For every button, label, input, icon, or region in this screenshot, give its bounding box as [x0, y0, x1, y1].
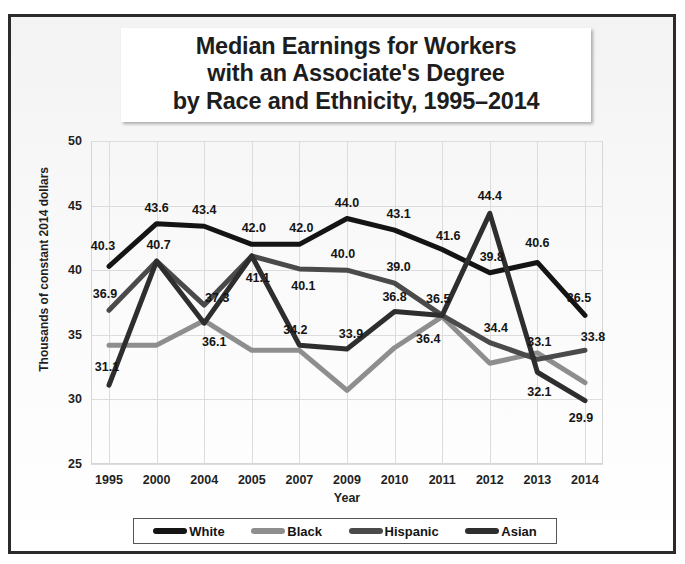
legend-item-asian[interactable]: Asian	[465, 524, 536, 539]
legend-swatch-icon	[465, 528, 499, 534]
chart-title: Median Earnings for Workers with an Asso…	[121, 28, 591, 122]
x-axis-tick-label: 2012	[476, 473, 504, 487]
gridline-horizontal	[91, 464, 603, 465]
x-axis-tick-label: 2004	[190, 473, 218, 487]
y-axis-tick-label: 50	[68, 134, 82, 148]
series-line-hispanic	[109, 256, 585, 359]
plot-wrap: 253035404550 199520002004200520072009201…	[91, 141, 603, 464]
series-lines	[91, 141, 603, 464]
chart-title-line-2: with an Associate's Degree	[125, 60, 587, 87]
y-axis-tick-label: 30	[68, 392, 82, 406]
x-axis-label: Year	[91, 491, 603, 505]
legend-label: Asian	[501, 524, 536, 539]
legend-label: Hispanic	[385, 524, 439, 539]
legend-label: White	[189, 524, 224, 539]
legend-item-black[interactable]: Black	[251, 524, 322, 539]
legend-swatch-icon	[153, 528, 187, 534]
x-axis-tick-label: 2014	[571, 473, 599, 487]
x-axis-tick-label: 2011	[429, 473, 456, 487]
x-axis-tick-label: 2007	[285, 473, 313, 487]
chart-title-line-3: by Race and Ethnicity, 1995–2014	[125, 88, 587, 115]
y-axis-tick-label: 25	[68, 457, 82, 471]
legend-item-hispanic[interactable]: Hispanic	[349, 524, 439, 539]
chart-legend: WhiteBlackHispanicAsian	[133, 518, 557, 544]
chart-figure-frame: Median Earnings for Workers with an Asso…	[8, 14, 676, 554]
x-axis-tick-label: 2013	[523, 473, 551, 487]
chart-title-line-1: Median Earnings for Workers	[125, 33, 587, 60]
x-axis-tick-label: 2009	[333, 473, 361, 487]
legend-swatch-icon	[251, 528, 285, 534]
legend-swatch-icon	[349, 528, 383, 534]
legend-label: Black	[287, 524, 322, 539]
series-line-asian	[109, 213, 585, 400]
y-axis-tick-label: 40	[68, 263, 82, 277]
y-axis-tick-label: 35	[68, 328, 82, 342]
legend-item-white[interactable]: White	[153, 524, 224, 539]
x-axis-tick-label: 2005	[238, 473, 266, 487]
x-axis-tick-label: 2010	[381, 473, 409, 487]
y-axis-tick-label: 45	[68, 199, 82, 213]
x-axis-tick-label: 2000	[143, 473, 171, 487]
y-axis-label: Thousands of constant 2014 dollars	[37, 167, 51, 372]
x-axis-tick-label: 1995	[95, 473, 123, 487]
